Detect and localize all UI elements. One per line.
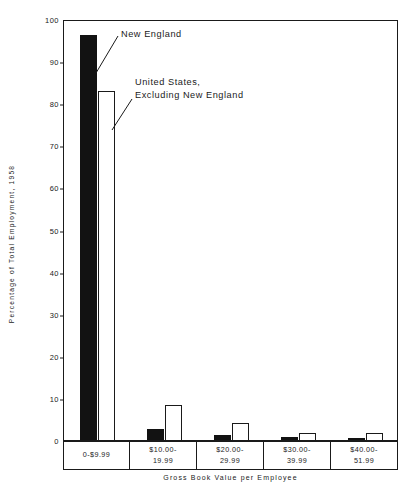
y-tick-label: 70 [50,144,59,152]
bar-united-states [299,433,316,440]
bar-new-england [147,429,164,440]
y-tick-label: 60 [50,186,59,194]
annotation-united-states: United States, Excluding New England [135,76,244,103]
y-tick-label: 10 [50,396,59,404]
bar-new-england [348,438,365,440]
bar-united-states [232,423,249,440]
y-axis-label: Percentage of Total Employment, 1958 [8,139,15,349]
bar-united-states [165,405,182,440]
y-tick-label: 20 [50,354,59,362]
y-tick-label: 30 [50,312,59,320]
y-tick-label: 50 [50,228,59,236]
x-category-label: $30.00- 39.99 [264,441,331,470]
x-category-label: $20.00- 29.99 [197,441,264,470]
x-category-label: 0-$9.99 [63,441,130,470]
y-tick-label: 100 [45,17,59,25]
x-axis-label: Gross Book Value per Employee [63,474,398,481]
chart-figure: Percentage of Total Employment, 1958 010… [0,0,415,488]
y-tick-label: 0 [54,438,59,446]
bar-new-england [281,437,298,440]
y-tick-label: 40 [50,270,59,278]
figure-title [150,0,310,8]
bar-united-states [98,91,115,440]
x-axis-categories: 0-$9.99$10.00- 19.99$20.00- 29.99$30.00-… [63,441,398,470]
annotation-new-england: New England [121,28,182,41]
x-category-label: $10.00- 19.99 [130,441,197,470]
y-tick-label: 80 [50,101,59,109]
bar-new-england [214,435,231,440]
y-tick-label: 90 [50,59,59,67]
x-category-label: $40.00- 51.99 [331,441,398,470]
bar-new-england [80,35,97,440]
bar-united-states [366,433,383,440]
